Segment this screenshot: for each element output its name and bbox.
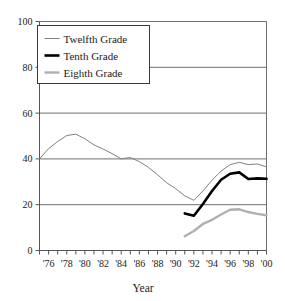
chart-canvas: 020406080100 '76'78'80'82'84'86'88'90'92… <box>0 0 285 301</box>
y-tick-label: 40 <box>23 153 33 164</box>
legend-item-label: Twelfth Grade <box>64 33 128 45</box>
y-tick-label: 60 <box>23 108 33 119</box>
series-line <box>40 134 267 200</box>
legend-item-label: Tenth Grade <box>64 50 119 62</box>
x-tick-label: '92 <box>188 258 200 269</box>
x-axis-ticks <box>40 251 267 255</box>
x-tick-label: '76 <box>43 258 55 269</box>
x-axis-tick-labels: '76'78'80'82'84'86'88'90'92'94'96'98'00 <box>43 258 273 269</box>
line-chart: 020406080100 '76'78'80'82'84'86'88'90'92… <box>0 0 285 301</box>
y-tick-label: 100 <box>18 16 33 27</box>
x-tick-label: '90 <box>170 258 182 269</box>
x-tick-label: '96 <box>224 258 236 269</box>
x-tick-label: '86 <box>133 258 145 269</box>
series-line <box>185 172 267 215</box>
y-tick-label: 20 <box>23 199 33 210</box>
x-tick-label: '84 <box>115 258 127 269</box>
x-tick-label: '94 <box>206 258 218 269</box>
x-tick-label: '82 <box>97 258 109 269</box>
y-tick-label: 80 <box>23 62 33 73</box>
x-tick-label: '80 <box>79 258 91 269</box>
chart-legend: Twelfth GradeTenth GradeEighth Grade <box>38 26 150 84</box>
y-tick-label: 0 <box>28 245 33 256</box>
x-tick-label: '98 <box>242 258 254 269</box>
x-tick-label: '78 <box>61 258 73 269</box>
x-axis-title: Year <box>132 282 153 294</box>
series-lines <box>40 134 267 236</box>
x-tick-label: '88 <box>152 258 164 269</box>
x-tick-label: '00 <box>261 258 273 269</box>
y-axis-tick-labels: 020406080100 <box>18 16 33 256</box>
legend-item-label: Eighth Grade <box>64 67 123 79</box>
